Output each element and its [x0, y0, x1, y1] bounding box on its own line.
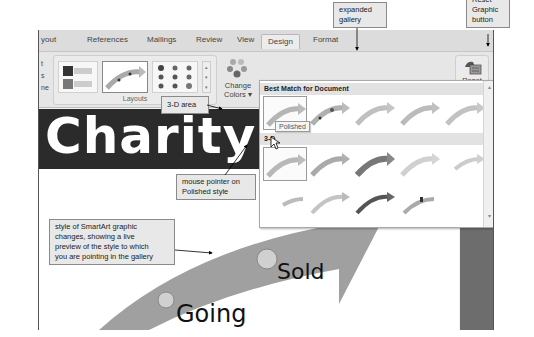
callout-leader-lines: [0, 0, 534, 337]
